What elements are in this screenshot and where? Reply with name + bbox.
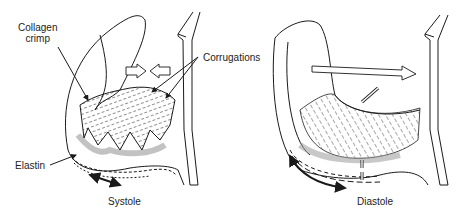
label-collagen-line2: crimp (18, 33, 57, 44)
caption-diastole: Diastole (357, 196, 393, 207)
diastole-panel (273, 15, 448, 188)
label-corrugations: Corrugations (203, 52, 260, 63)
label-collagen-line1: Collagen (18, 22, 57, 33)
valve-diagram (0, 0, 463, 219)
label-collagen-crimp: Collagen crimp (18, 22, 57, 44)
caption-systole: Systole (108, 196, 141, 207)
label-elastin: Elastin (15, 160, 45, 171)
systole-panel (50, 12, 200, 185)
